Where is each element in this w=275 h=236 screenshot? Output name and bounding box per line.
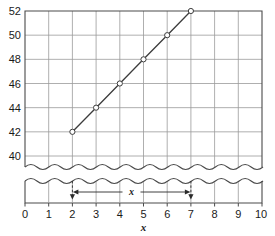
data-point-marker	[188, 8, 193, 13]
annotation-arrowhead-left	[73, 189, 79, 194]
data-point-marker	[70, 129, 75, 134]
y-tick-label-40: 40	[9, 150, 21, 162]
y-tick-label-50: 50	[9, 29, 21, 41]
x-axis-tick-labels: 0 1 2 3 4 5 6 7 8 9 10	[22, 208, 267, 220]
annotation-dropline-left-arrowhead	[70, 194, 75, 199]
data-line	[72, 11, 190, 132]
chart-figure: 52 50 48 46 44 42 40	[0, 0, 275, 236]
x-tick-label-6: 6	[164, 208, 170, 220]
y-tick-label-46: 46	[9, 78, 21, 90]
x-tick-label-10: 10	[255, 208, 267, 220]
span-annotation: x	[70, 181, 194, 200]
plot-gridlines	[25, 11, 262, 167]
x-tick-label-9: 9	[235, 208, 241, 220]
data-series-group	[70, 8, 194, 134]
x-tick-label-8: 8	[212, 208, 218, 220]
y-tick-label-52: 52	[9, 5, 21, 17]
y-tick-label-48: 48	[9, 53, 21, 65]
x-tick-label-2: 2	[69, 208, 75, 220]
x-tick-label-5: 5	[140, 208, 146, 220]
x-tick-label-0: 0	[22, 208, 28, 220]
x-tick-label-4: 4	[117, 208, 123, 220]
line-chart: 52 50 48 46 44 42 40	[0, 0, 275, 236]
annotation-dropline-right-arrowhead	[188, 194, 193, 199]
data-point-marker	[141, 57, 146, 62]
y-tick-label-42: 42	[9, 126, 21, 138]
data-point-marker	[94, 105, 99, 110]
axis-break-wave-upper	[25, 165, 263, 170]
x-axis-title: x	[140, 221, 147, 233]
data-point-marker	[117, 81, 122, 86]
x-tick-label-7: 7	[188, 208, 194, 220]
annotation-arrowhead-right	[185, 189, 191, 194]
y-tick-label-44: 44	[9, 102, 21, 114]
annotation-span-label: x	[128, 186, 134, 197]
x-tick-label-1: 1	[46, 208, 52, 220]
axis-break-wave-lower	[25, 179, 263, 184]
data-point-marker	[165, 33, 170, 38]
y-axis-tick-labels: 52 50 48 46 44 42 40	[9, 5, 21, 162]
x-tick-label-3: 3	[93, 208, 99, 220]
